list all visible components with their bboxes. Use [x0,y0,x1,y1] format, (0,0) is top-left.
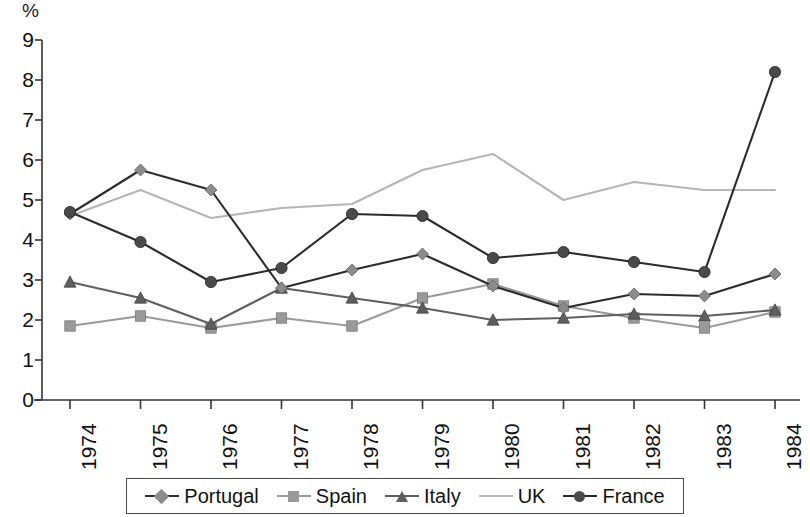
legend-item-portugal[interactable]: Portugal [136,479,268,513]
legend-symbol-circle-icon [563,488,597,504]
legend-item-italy[interactable]: Italy [376,479,470,513]
legend-label: Spain [316,486,367,506]
legend-marker-square-icon [288,491,299,502]
x-axis-tick-label: 1978 [360,423,381,470]
x-axis-tick-label: 1984 [783,423,804,470]
x-axis-tick-label: 1976 [219,423,240,470]
legend-marker-triangle-icon [396,491,408,502]
x-axis-tick-label: 1977 [290,423,311,470]
x-axis-tick-label: 1983 [713,423,734,470]
legend-item-uk[interactable]: UK [470,479,555,513]
legend-label: France [602,486,664,506]
legend-marker-diamond-icon [154,489,170,505]
legend-label: Portugal [184,486,259,506]
x-axis-tick-label: 1982 [642,423,663,470]
legend-symbol-diamond-icon [145,488,179,504]
legend-label: UK [518,486,546,506]
legend-line-icon [479,495,513,497]
legend-symbol-square-icon [277,488,311,504]
legend-label: Italy [424,486,461,506]
x-axis-tick-label: 1975 [149,423,170,470]
legend-symbol-none-icon [479,488,513,504]
x-axis-tick-label: 1979 [431,423,452,470]
legend: PortugalSpainItalyUKFrance [126,478,684,514]
x-axis-tick-label: 1974 [78,423,99,470]
x-axis-tick-label: 1980 [501,423,522,470]
line-chart: % 0123456789 197419751976197719781979198… [0,0,810,517]
x-axis-tick-label: 1981 [572,423,593,470]
legend-item-france[interactable]: France [554,479,673,513]
legend-marker-circle-icon [574,491,585,502]
legend-symbol-triangle-icon [385,488,419,504]
x-axis-tick-labels: 1974197519761977197819791980198119821983… [0,0,810,517]
legend-item-spain[interactable]: Spain [268,479,376,513]
